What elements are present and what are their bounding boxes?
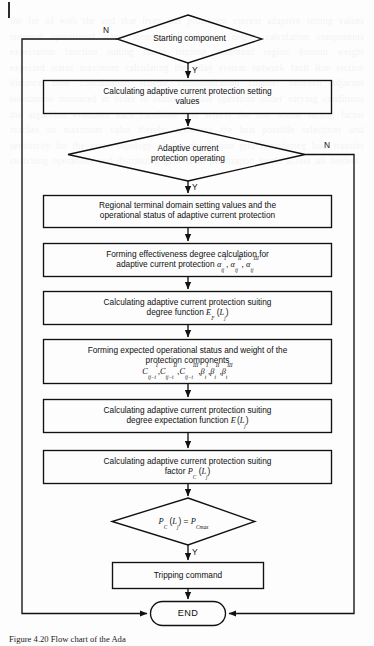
node-factor-max-decision-shape (112, 498, 255, 545)
branch-label-operating-yes: Y (192, 182, 198, 192)
node-end-terminal-shape (151, 602, 226, 626)
branch-label-start-no: N (103, 25, 109, 35)
branch-label-start-yes: Y (192, 65, 198, 75)
node-calc-setting-values-shape (44, 81, 332, 114)
node-regional-terminal-domain-shape (44, 196, 332, 228)
node-start-decision-shape (117, 15, 262, 63)
edge-start-no-to-end (22, 39, 147, 614)
node-calc-suiting-degree-function-shape (44, 292, 332, 325)
branch-label-operating-no: N (324, 140, 330, 150)
node-tripping-command-shape (113, 563, 264, 589)
node-calc-suiting-factor-shape (44, 451, 332, 484)
node-forming-expected-status-weight-shape (44, 340, 332, 384)
flowchart-canvas (0, 0, 374, 646)
figure-flowchart-page: the for of with the and that from this p… (0, 0, 374, 646)
node-calc-degree-expectation-function-shape (44, 400, 332, 433)
node-forming-effectiveness-degree-shape (44, 244, 332, 277)
branch-label-factor-max-yes: Y (192, 547, 198, 557)
figure-caption: Figure 4.20 Flow chart of the Ada (9, 634, 369, 646)
node-protection-operating-decision-shape (68, 128, 305, 181)
